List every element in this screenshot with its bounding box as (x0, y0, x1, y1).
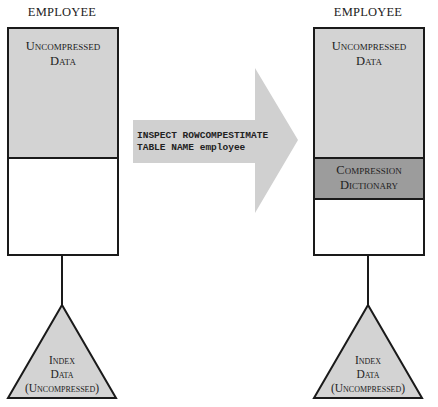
left-uncompressed-data-segment: Uncompressed Data (9, 29, 117, 157)
left-index-label: Index Data (Uncompressed) (7, 353, 117, 395)
right-index-label-line1: Index (313, 353, 423, 367)
left-table: Uncompressed Data (7, 27, 119, 256)
left-index-connector (61, 255, 63, 306)
left-empty-segment (9, 157, 117, 254)
right-data-label-line2: Data (315, 54, 423, 69)
left-index-label-line2: Data (7, 367, 117, 381)
compression-dictionary-segment: Compression Dictionary (315, 157, 423, 200)
left-data-label: Uncompressed Data (9, 29, 117, 69)
dictionary-label-line1: Compression (315, 163, 423, 178)
right-uncompressed-data-segment: Uncompressed Data (315, 29, 423, 157)
right-data-label: Uncompressed Data (315, 29, 423, 69)
left-data-label-line2: Data (9, 54, 117, 69)
dictionary-label: Compression Dictionary (315, 159, 423, 193)
command-text: INSPECT ROWCOMPESTIMATETABLE NAME employ… (137, 130, 268, 154)
left-index-label-line3: (Uncompressed) (7, 381, 117, 395)
left-data-label-line1: Uncompressed (9, 39, 117, 54)
right-index-label-line3: (Uncompressed) (313, 381, 423, 395)
right-empty-segment (315, 200, 423, 254)
right-table-title: EMPLOYEE (313, 5, 423, 20)
command-line1: INSPECT ROWCOMPESTIMATE (137, 130, 268, 142)
right-index-label-line2: Data (313, 367, 423, 381)
right-table: Uncompressed Data Compression Dictionary (313, 27, 425, 256)
left-index-label-line1: Index (7, 353, 117, 367)
dictionary-label-line2: Dictionary (315, 178, 423, 193)
right-index-label: Index Data (Uncompressed) (313, 353, 423, 395)
left-table-title: EMPLOYEE (7, 5, 117, 20)
right-index-connector (367, 254, 369, 306)
right-data-label-line1: Uncompressed (315, 39, 423, 54)
command-line2: TABLE NAME employee (137, 142, 268, 154)
